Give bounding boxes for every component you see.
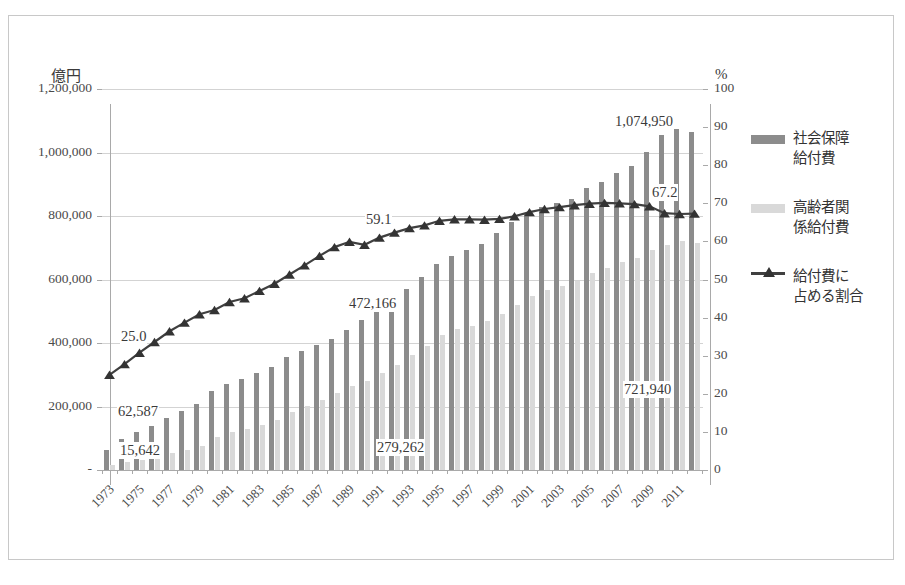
legend-label-line1: 社会保障: [793, 128, 901, 148]
x-axis-tickmark: [162, 470, 163, 474]
x-axis-tick-label: 2003: [530, 481, 567, 518]
legend-swatch-icon: [751, 135, 785, 144]
x-axis-tick-label: 2009: [620, 481, 657, 518]
x-axis-tick-label: 1997: [440, 481, 477, 518]
legend-label-line2: 占める割合: [793, 286, 901, 306]
right-axis-tickmark: [703, 241, 708, 242]
x-axis-tick-label: 2005: [560, 481, 597, 518]
right-axis-tick-label: 50: [714, 271, 748, 287]
legend-item[interactable]: 高齢者関係給付費: [751, 197, 901, 237]
ratio-line-series: [102, 89, 702, 470]
data-label: 59.1: [365, 211, 392, 228]
right-axis-tick-label: 0: [714, 461, 748, 477]
left-axis-tick-label: 600,000: [20, 271, 92, 287]
left-axis-tick-label: 400,000: [20, 334, 92, 350]
x-axis-tick-label: 2001: [500, 481, 537, 518]
right-axis-tickmark: [703, 127, 708, 128]
x-axis-tickmark: [177, 470, 178, 474]
chart-legend: 社会保障給付費高齢者関係給付費給付費に占める割合: [751, 128, 901, 335]
x-axis-tick-label: 2007: [590, 481, 627, 518]
x-axis-tickmark: [687, 470, 688, 474]
legend-item-label: 高齢者関係給付費: [793, 197, 901, 237]
data-label: 279,262: [376, 439, 425, 456]
x-axis-tickmark: [387, 470, 388, 474]
right-axis-tick-label: 100: [714, 80, 748, 96]
x-axis-tickmark: [492, 470, 493, 474]
data-label: 1,074,950: [614, 113, 674, 130]
data-label: 62,587: [117, 403, 159, 420]
x-axis-tickmark: [117, 470, 118, 474]
x-axis-tickmark: [597, 470, 598, 474]
x-axis-tick-label: 1999: [470, 481, 507, 518]
data-label: 15,642: [119, 442, 161, 459]
x-axis-tick-label: 1989: [320, 481, 357, 518]
legend-label-line1: 給付費に: [793, 266, 901, 286]
x-axis-tickmark: [642, 470, 643, 474]
right-axis-tickmark: [703, 89, 708, 90]
x-axis-tick-label: 1993: [380, 481, 417, 518]
legend-item-label: 社会保障給付費: [793, 128, 901, 168]
right-axis-tick-label: 60: [714, 232, 748, 248]
x-axis-tickmark: [222, 470, 223, 474]
left-axis-tick-label: 800,000: [20, 207, 92, 223]
right-axis-tick-label: 70: [714, 194, 748, 210]
x-axis-tick-label: 1981: [200, 481, 237, 518]
x-axis-tickmark: [237, 470, 238, 474]
x-axis-tickmark: [282, 470, 283, 474]
right-axis-tick-label: 10: [714, 423, 748, 439]
legend-item-label: 給付費に占める割合: [793, 266, 901, 306]
left-axis-tick-label: -: [20, 461, 92, 477]
x-axis-tickmark: [462, 470, 463, 474]
x-axis-tickmark: [627, 470, 628, 474]
x-axis-tickmark: [552, 470, 553, 474]
legend-label-line1: 高齢者関: [793, 197, 901, 217]
data-label: 721,940: [623, 381, 672, 398]
right-axis-tickmark: [703, 165, 708, 166]
left-axis-tick-label: 1,000,000: [20, 144, 92, 160]
x-axis-tickmark: [102, 470, 103, 474]
x-axis-tickmark: [702, 470, 703, 474]
legend-label-line2: 給付費: [793, 148, 901, 168]
x-axis-tickmark: [672, 470, 673, 474]
x-axis-tick-label: 1975: [110, 481, 147, 518]
right-axis-tickmark: [703, 470, 708, 471]
right-axis-tickmark: [703, 280, 708, 281]
x-axis-tick-label: 1973: [80, 481, 117, 518]
right-axis-tickmark: [703, 394, 708, 395]
x-axis-tickmark: [372, 470, 373, 474]
x-axis-tick-label: 1977: [140, 481, 177, 518]
right-axis-tickmark: [703, 318, 708, 319]
legend-triangle-marker-icon: [763, 267, 775, 277]
data-label: 25.0: [120, 328, 147, 345]
legend-item[interactable]: 給付費に占める割合: [751, 266, 901, 306]
right-axis-tick-label: 90: [714, 118, 748, 134]
right-axis-line: [710, 104, 711, 485]
x-axis-tick-label: 1979: [170, 481, 207, 518]
x-axis-tick-label: 1995: [410, 481, 447, 518]
right-axis-tickmark: [703, 432, 708, 433]
x-axis-tickmark: [297, 470, 298, 474]
x-axis-tickmark: [312, 470, 313, 474]
x-axis-tickmark: [507, 470, 508, 474]
x-axis-tick-label: 1983: [230, 481, 267, 518]
x-axis-tickmark: [192, 470, 193, 474]
x-axis-tickmark: [522, 470, 523, 474]
data-label: 472,166: [348, 295, 397, 312]
legend-label-line2: 係給付費: [793, 217, 901, 237]
x-axis-tickmark: [477, 470, 478, 474]
left-axis-tick-label: 1,200,000: [20, 80, 92, 96]
left-axis-tick-label: 200,000: [20, 398, 92, 414]
x-axis-tickmark: [432, 470, 433, 474]
legend-item[interactable]: 社会保障給付費: [751, 128, 901, 168]
x-axis-tickmark: [612, 470, 613, 474]
x-axis-tickmark: [657, 470, 658, 474]
x-axis-tickmark: [327, 470, 328, 474]
x-axis-tickmark: [207, 470, 208, 474]
ratio-line-marker: [329, 243, 340, 251]
right-axis-tickmark: [703, 356, 708, 357]
x-axis-tickmark: [582, 470, 583, 474]
right-axis-tick-label: 20: [714, 385, 748, 401]
x-axis-tickmark: [357, 470, 358, 474]
right-axis-tick-label: 80: [714, 156, 748, 172]
x-axis-tickmark: [447, 470, 448, 474]
